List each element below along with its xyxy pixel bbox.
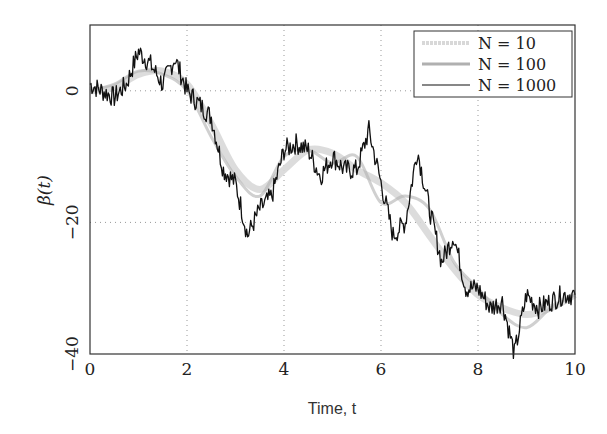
x-tick-label: 10 <box>564 359 586 379</box>
legend-label-n10: N = 10 <box>478 34 536 53</box>
x-tick-label: 2 <box>182 359 193 379</box>
x-tick-label: 4 <box>279 359 290 379</box>
series-line-n10 <box>90 71 575 315</box>
y-axis-ticks: 0−20−40 <box>62 85 82 372</box>
chart-canvas: 0246810 0−20−40 Time, t β(t) N = 10 N = … <box>0 0 607 434</box>
legend-label-n100: N = 100 <box>478 55 546 74</box>
x-axis-ticks: 0246810 <box>85 359 586 379</box>
series-line-n100 <box>90 70 575 327</box>
y-tick-label: −20 <box>62 204 82 240</box>
legend-label-n1000: N = 1000 <box>478 76 556 95</box>
y-tick-label: −40 <box>62 336 82 372</box>
y-axis-label: β(t) <box>34 175 54 206</box>
x-axis-label: Time, t <box>308 400 357 417</box>
x-tick-label: 0 <box>85 359 96 379</box>
x-tick-label: 8 <box>473 359 484 379</box>
y-tick-label: 0 <box>62 85 82 96</box>
x-tick-label: 6 <box>376 359 387 379</box>
legend: N = 10 N = 100 N = 1000 <box>414 31 572 97</box>
